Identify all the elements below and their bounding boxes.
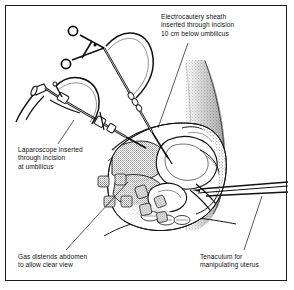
leader-tenaculum — [244, 196, 262, 250]
illustration-figure: Electrocautery sheath inserted through i… — [0, 0, 294, 290]
illustration-artwork — [0, 0, 294, 290]
caption-gas: Gas distends abdomen to allow clear view — [18, 253, 87, 270]
caption-laparoscope: Laparoscope inserted through incision at… — [18, 146, 83, 171]
leader-electrocautery — [158, 43, 188, 128]
caption-tenaculum: Tenaculum for manipulating uterus — [200, 253, 259, 270]
caption-electrocautery: Electrocautery sheath inserted through i… — [161, 13, 234, 38]
leader-laparoscope — [58, 120, 74, 144]
